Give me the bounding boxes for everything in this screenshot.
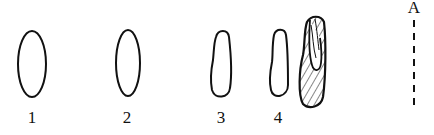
diagram-figure: 1 2 3 4 A bbox=[0, 0, 434, 135]
axis-a-label: A bbox=[408, 0, 421, 17]
shape-4-label: 4 bbox=[274, 108, 283, 127]
shape-4 bbox=[270, 30, 288, 96]
shape-3 bbox=[211, 31, 231, 97]
shape-1 bbox=[18, 31, 46, 97]
shape-2 bbox=[116, 30, 140, 96]
shape-1-label: 1 bbox=[28, 108, 37, 127]
hatched-shape bbox=[295, 10, 330, 115]
shape-3-label: 3 bbox=[217, 108, 226, 127]
shape-2-label: 2 bbox=[123, 108, 132, 127]
